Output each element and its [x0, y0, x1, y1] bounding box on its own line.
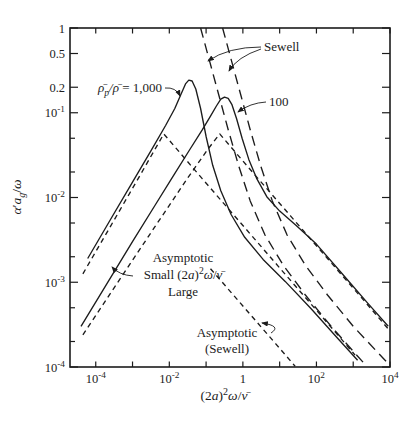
y-axis-title: α′ag/ω	[9, 179, 27, 214]
x-axis-title: (2a)2ω/ν̄	[201, 386, 252, 403]
annotation-density-ratio-text: ρ̄p/ρ̄ = 1,000	[97, 80, 162, 98]
y-tick-label: 1	[59, 22, 65, 36]
x-tick-label: 104	[381, 370, 399, 386]
annotation-100-text: 100	[269, 94, 289, 109]
y-tick-label: 10-1	[45, 104, 66, 120]
y-tick-label: 10-2	[45, 189, 66, 205]
x-tick-label: 10-2	[159, 370, 180, 386]
annotation-sewell-leader-arrow	[208, 47, 261, 61]
x-tick-label: 102	[308, 370, 326, 386]
annotation-density-ratio-leader-arrow	[165, 88, 180, 96]
annotation-sewell: Sewell	[208, 39, 300, 71]
curve-exact-1000	[88, 80, 358, 360]
annotation-asymptotic-small-large-text: Asymptotic	[153, 250, 214, 265]
y-tick-label: 0.2	[49, 81, 65, 95]
annotation-asymptotic-small-large-text: Small (2a)2ω/ν̄	[144, 265, 227, 282]
annotation-asymptotic-sewell-text: Asymptotic	[197, 325, 258, 340]
annotation-100: 100	[238, 94, 289, 112]
annotation-asymptotic-sewell-text: (Sewell)	[205, 341, 249, 356]
annotation-asymptotic-sewell: Asymptotic(Sewell)	[197, 323, 275, 356]
curve-sewell-100	[223, 28, 389, 364]
x-tick-label: 1	[240, 372, 246, 386]
curve-sewell-1000	[201, 28, 365, 364]
y-tick-label: 10-3	[45, 274, 66, 290]
annotation-100-leader-arrow	[238, 102, 266, 112]
y-tick-label: 10-4	[45, 359, 66, 375]
annotation-asymptotic-small-large-text: Large	[168, 284, 198, 299]
annotation-sewell-text: Sewell	[264, 39, 300, 54]
figure-canvas: 10-410-2110210410.50.210-110-210-310-4(2…	[0, 0, 417, 427]
annotation-density-ratio: ρ̄p/ρ̄ = 1,000	[97, 80, 180, 98]
curve-asymptotic-1000	[83, 134, 355, 355]
annotation-asymptotic-small-large: AsymptoticSmall (2a)2ω/ν̄Large	[112, 250, 226, 299]
y-tick-label: 0.5	[49, 47, 65, 61]
plot-frame	[70, 28, 390, 367]
curve-asymptotic-100	[83, 134, 388, 335]
x-tick-label: 10-4	[86, 370, 107, 386]
curve-exact-100	[81, 97, 388, 326]
attenuation-vs-frequency-chart: 10-410-2110210410.50.210-110-210-310-4(2…	[0, 0, 417, 427]
plot-area: 10-410-2110210410.50.210-110-210-310-4(2…	[9, 22, 399, 404]
annotation-asymptotic-sewell-leader-arrow	[262, 323, 275, 333]
